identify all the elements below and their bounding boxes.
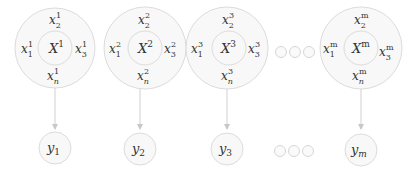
diagram-canvas: X1 x21 x11 x31 xn1 y1 X2 x22 x12 x32 xn2… [0, 0, 413, 169]
ellipsis-bottom [275, 146, 314, 157]
group-3: X3 x23 x13 x33 xn3 y3 [186, 7, 268, 165]
ellipsis-top [276, 47, 315, 58]
group-1: X1 x21 x11 x31 xn1 y1 [15, 8, 95, 164]
group-m: Xm x2m x1m x3m xnm ym [320, 7, 402, 166]
group-2: X2 x22 x12 x32 xn2 y2 [104, 7, 186, 165]
